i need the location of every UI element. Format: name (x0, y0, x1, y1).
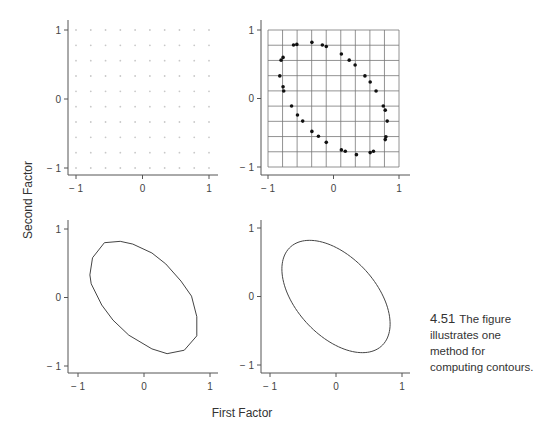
x-tick-label: − 1 (263, 381, 278, 392)
grid-point (105, 90, 107, 92)
data-point (340, 52, 344, 56)
y-tick-label: 0 (248, 291, 254, 302)
grid-point (119, 90, 121, 92)
data-point (310, 130, 314, 134)
grid-point (75, 44, 77, 46)
data-point (321, 43, 325, 47)
grid-point (193, 29, 195, 31)
grid-point (208, 60, 210, 62)
grid-point (179, 60, 181, 62)
data-point (324, 45, 328, 49)
grid-point (164, 60, 166, 62)
grid-point (75, 121, 77, 123)
grid-point (179, 121, 181, 123)
data-point (278, 74, 282, 78)
grid-point (75, 106, 77, 108)
x-tick-label: − 1 (261, 183, 276, 194)
panel-grid-points: − 101− 101 (47, 20, 218, 194)
grid-point (119, 152, 121, 154)
y-tick-label: − 1 (240, 162, 255, 173)
x-tick-label: 0 (141, 381, 147, 392)
grid-point (179, 136, 181, 138)
grid-point (193, 44, 195, 46)
data-point (368, 151, 372, 155)
data-point (353, 63, 357, 67)
grid-point (134, 60, 136, 62)
y-tick-label: 1 (248, 25, 254, 36)
grid-point (179, 75, 181, 77)
x-tick-label: 0 (333, 381, 339, 392)
data-point (347, 58, 351, 62)
grid-point (208, 152, 210, 154)
grid-point (75, 90, 77, 92)
grid-point (208, 90, 210, 92)
data-point (317, 134, 321, 138)
grid-point (208, 106, 210, 108)
y-tick-label: 0 (55, 292, 61, 303)
grid-point (105, 152, 107, 154)
grid-point (119, 106, 121, 108)
grid-point (90, 152, 92, 154)
data-point (385, 119, 389, 123)
grid-point (90, 44, 92, 46)
y-tick-label: 1 (248, 223, 254, 234)
grid-point (119, 136, 121, 138)
grid-point (149, 29, 151, 31)
grid-point (105, 44, 107, 46)
grid-point (179, 106, 181, 108)
grid-point (75, 29, 77, 31)
panel-grid-scatter: − 101− 101 (240, 20, 410, 194)
grid-point (134, 136, 136, 138)
data-point (292, 43, 296, 47)
grid-point (90, 167, 92, 169)
panel-ellipse-contour: − 101− 101 (240, 220, 410, 392)
grid-point (179, 167, 181, 169)
data-point (296, 113, 300, 117)
y-tick-label: 0 (55, 94, 61, 105)
grid-point (90, 90, 92, 92)
data-point (310, 41, 314, 45)
grid-point (149, 152, 151, 154)
grid-point (134, 106, 136, 108)
y-tick-label: 1 (55, 224, 61, 235)
grid-point (164, 121, 166, 123)
y-axis-label: Second Factor (21, 161, 35, 239)
grid-point (164, 167, 166, 169)
grid-point (119, 121, 121, 123)
grid-point (75, 136, 77, 138)
grid-point (164, 75, 166, 77)
grid-point (75, 152, 77, 154)
x-tick-label: − 1 (69, 183, 84, 194)
data-point (340, 148, 344, 152)
grid-point (149, 90, 151, 92)
grid-point (105, 29, 107, 31)
grid-point (149, 75, 151, 77)
grid-point (149, 136, 151, 138)
x-axis-label: First Factor (212, 406, 273, 420)
polygon-contour (90, 241, 197, 353)
grid-point (208, 121, 210, 123)
grid-point (105, 121, 107, 123)
grid-point (119, 167, 121, 169)
grid-point (134, 29, 136, 31)
grid-point (134, 167, 136, 169)
grid-point (75, 75, 77, 77)
figure-caption: 4.51The figure illustrates one method fo… (430, 311, 560, 375)
grid-point (105, 106, 107, 108)
grid-point (149, 44, 151, 46)
grid-point (90, 136, 92, 138)
grid-point (179, 152, 181, 154)
x-tick-label: − 1 (71, 381, 86, 392)
grid-point (164, 106, 166, 108)
grid-point (149, 60, 151, 62)
grid-point (134, 44, 136, 46)
grid-point (149, 121, 151, 123)
data-point (383, 108, 387, 112)
grid-point (149, 167, 151, 169)
data-point (290, 104, 294, 108)
grid-point (90, 121, 92, 123)
x-tick-label: 1 (207, 381, 213, 392)
data-point (363, 74, 367, 78)
caption-number: 4.51 (430, 311, 455, 326)
grid-point (134, 152, 136, 154)
